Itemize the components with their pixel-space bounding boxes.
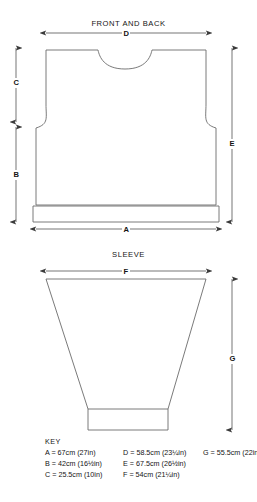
dimension-label-F: F — [122, 267, 130, 277]
dimension-label-A: A — [122, 225, 130, 235]
garment-schematic: FRONT AND BACK SLEEVE — [0, 0, 257, 502]
right-armhole-curve — [206, 50, 216, 128]
key-entry-G: G = 55.5cm (22in) — [203, 448, 257, 458]
dimension-label-G: G — [228, 354, 237, 364]
key-entry-C: C = 25.5cm (10in) — [45, 470, 123, 480]
key-entries-grid: A = 67cm (27in) D = 58.5cm (23¼in) G = 5… — [45, 448, 257, 480]
key-entry-A: A = 67cm (27in) — [45, 448, 123, 458]
dimension-label-D: D — [122, 29, 130, 39]
front-back-body-outline — [36, 50, 216, 205]
key-entry-D: D = 58.5cm (23¼in) — [123, 448, 203, 458]
neckline-curve — [98, 50, 152, 69]
key-entry-F: F = 54cm (21¼in) — [123, 470, 203, 480]
measurements-key: KEY A = 67cm (27in) D = 58.5cm (23¼in) G… — [45, 437, 257, 480]
sleeve-outline — [46, 279, 206, 409]
dimension-label-C: C — [12, 78, 20, 88]
key-entry-E: E = 67.5cm (26½in) — [123, 459, 203, 469]
sleeve-cuff — [88, 409, 168, 430]
dimension-label-E: E — [228, 139, 236, 149]
body-hem-welt — [33, 206, 219, 222]
left-armhole-curve — [36, 50, 46, 128]
key-entry-B: B = 42cm (16½in) — [45, 459, 123, 469]
dimension-label-B: B — [12, 170, 20, 180]
key-title: KEY — [45, 437, 257, 446]
schematic-drawing — [0, 0, 257, 502]
